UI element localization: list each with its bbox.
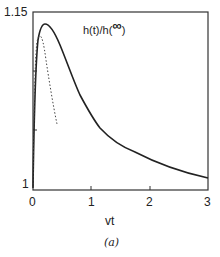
annotation-main: h(t)/h(	[83, 24, 112, 36]
x-tick-label-0: 0	[29, 196, 36, 208]
plot-frame	[33, 12, 208, 190]
x-tick-label-2: 2	[146, 196, 153, 208]
x-tick-label-1: 1	[88, 196, 95, 208]
solid-curve	[33, 24, 208, 188]
y-tick-label-bottom: 1	[22, 178, 29, 190]
annotation-close: )	[122, 24, 126, 36]
x-tick-label-3: 3	[204, 196, 211, 208]
x-axis-label: vt	[105, 215, 114, 227]
annotation-infinity: ∞	[112, 18, 121, 33]
y-tick-label-top: 1.15	[4, 6, 27, 18]
curve-annotation: h(t)/h(∞)	[83, 24, 125, 36]
figure-caption: (a)	[104, 236, 119, 249]
